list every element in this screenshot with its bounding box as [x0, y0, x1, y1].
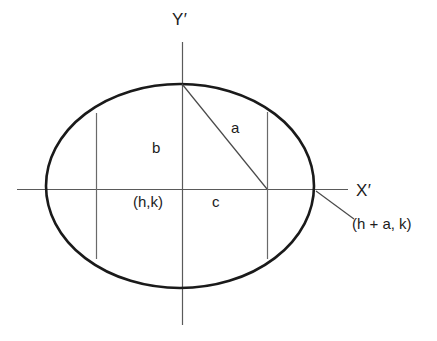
y-axis-label: Y′ — [172, 11, 188, 28]
x-axis-label: X′ — [356, 182, 372, 199]
diagram-canvas: Y′ X′ b a c (h,k) (h + a, k) — [0, 0, 437, 341]
semi-major-axis-label: a — [231, 120, 239, 135]
semi-minor-axis-label: b — [152, 140, 160, 155]
center-point-label: (h,k) — [133, 194, 163, 209]
ellipse-outline — [46, 84, 314, 288]
vertex-point-label: (h + a, k) — [352, 216, 412, 231]
focal-distance-label: c — [212, 194, 220, 209]
vertex-leader-line — [316, 191, 354, 219]
ellipse-diagram-svg — [0, 0, 437, 341]
